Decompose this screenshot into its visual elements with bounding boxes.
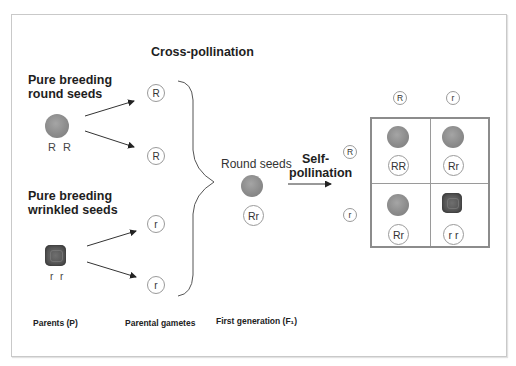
arrow-to-gamete-R-1 — [85, 101, 134, 116]
brace-icon — [178, 81, 214, 296]
punnett-row-header-r: r — [343, 208, 357, 222]
arrow-to-gamete-r-1 — [87, 231, 136, 246]
arrow-to-gamete-r-2 — [87, 262, 136, 277]
punnett-row-header-R: R — [343, 145, 357, 159]
f1-round-seed-icon — [241, 175, 263, 197]
f1-genotype: Rr — [243, 205, 264, 226]
self-pollination-label-1: Self- — [302, 152, 329, 167]
f1-label: Round seeds — [221, 157, 292, 171]
punnett-divider-horizontal — [372, 183, 488, 184]
punnett-cell-RR-genotype: RR — [388, 155, 409, 176]
footer-gametes-label: Parental gametes — [125, 318, 195, 328]
punnett-cell-rr-wrinkled-seed-icon — [442, 193, 462, 213]
punnett-cell-Rr-bottom-genotype: Rr — [388, 224, 409, 245]
footer-first-generation-label: First generation (F₁) — [216, 316, 297, 326]
punnett-cell-Rr-top-genotype: Rr — [443, 155, 464, 176]
punnett-cell-Rr-bottom-seed-icon — [387, 194, 409, 216]
punnett-cell-Rr-top-seed-icon — [442, 126, 464, 148]
punnett-cell-rr-genotype: r r — [443, 224, 464, 245]
self-pollination-label-2: pollination — [289, 166, 352, 181]
punnett-col-header-R: R — [393, 91, 407, 105]
punnett-cell-RR-seed-icon — [387, 126, 409, 148]
punnett-col-header-r: r — [446, 91, 460, 105]
arrow-to-gamete-R-2 — [85, 131, 134, 147]
footer-parents-label: Parents (P) — [33, 318, 78, 328]
